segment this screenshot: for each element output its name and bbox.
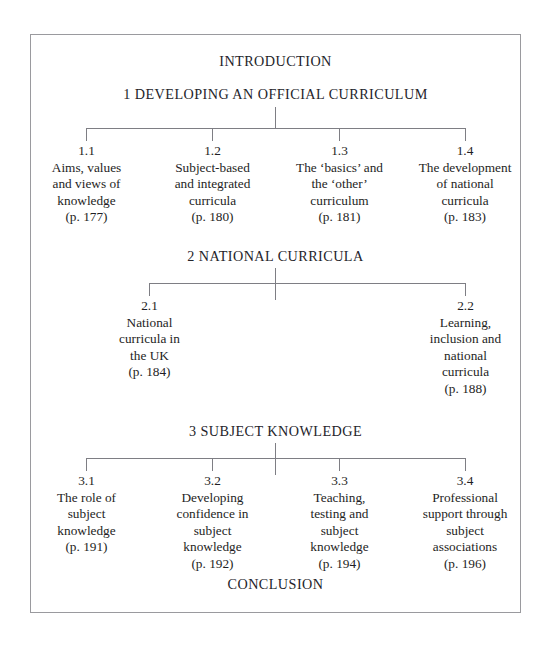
- node-3-2: 3.2 Developing confidence in subject kno…: [157, 473, 268, 572]
- connector-drop-3-1: [86, 458, 87, 471]
- connector-drop-1-2: [212, 128, 213, 141]
- diagram-frame: INTRODUCTION 1 DEVELOPING AN OFFICIAL CU…: [30, 34, 521, 613]
- connector-drop-2-1: [149, 283, 150, 296]
- connector-stem-section-1: [275, 107, 276, 128]
- connector-stem-section-3: [275, 443, 276, 475]
- node-title: The ‘basics’ and the ‘other’ curriculum: [283, 160, 396, 209]
- node-page: (p. 196): [407, 556, 523, 572]
- node-title: Teaching, testing and subject knowledge: [283, 490, 396, 556]
- node-1-3: 1.3 The ‘basics’ and the ‘other’ curricu…: [283, 143, 396, 226]
- node-number: 3.2: [157, 473, 268, 489]
- connector-drop-3-3: [339, 458, 340, 471]
- connector-bar-section-3: [86, 458, 465, 459]
- node-2-1: 2.1 National curricula in the UK (p. 184…: [94, 298, 205, 381]
- node-3-4: 3.4 Professional support through subject…: [407, 473, 523, 572]
- node-2-2: 2.2 Learning, inclusion and national cur…: [410, 298, 521, 397]
- node-title: The development of national curricula: [407, 160, 523, 209]
- connector-drop-3-2: [212, 458, 213, 471]
- node-page: (p. 181): [283, 209, 396, 225]
- node-3-3: 3.3 Teaching, testing and subject knowle…: [283, 473, 396, 572]
- node-number: 1.3: [283, 143, 396, 159]
- node-number: 3.1: [31, 473, 142, 489]
- node-number: 2.1: [94, 298, 205, 314]
- node-page: (p. 177): [31, 209, 142, 225]
- node-title: Subject-based and integrated curricula: [157, 160, 268, 209]
- node-1-4: 1.4 The development of national curricul…: [407, 143, 523, 226]
- node-number: 3.4: [407, 473, 523, 489]
- heading-section-1: 1 DEVELOPING AN OFFICIAL CURRICULUM: [31, 86, 520, 103]
- node-1-1: 1.1 Aims, values and views of knowledge …: [31, 143, 142, 226]
- connector-drop-1-1: [86, 128, 87, 141]
- connector-drop-1-3: [339, 128, 340, 141]
- node-page: (p. 191): [31, 539, 142, 555]
- heading-conclusion: CONCLUSION: [31, 576, 520, 593]
- node-number: 1.4: [407, 143, 523, 159]
- connector-bar-section-1: [86, 128, 465, 129]
- node-title: Aims, values and views of knowledge: [31, 160, 142, 209]
- connector-stem-section-2: [275, 268, 276, 300]
- node-page: (p. 183): [407, 209, 523, 225]
- node-page: (p. 192): [157, 556, 268, 572]
- heading-section-3: 3 SUBJECT KNOWLEDGE: [31, 423, 520, 440]
- node-title: The role of subject knowledge: [31, 490, 142, 539]
- node-number: 3.3: [283, 473, 396, 489]
- node-3-1: 3.1 The role of subject knowledge (p. 19…: [31, 473, 142, 556]
- connector-drop-3-4: [465, 458, 466, 471]
- node-number: 1.1: [31, 143, 142, 159]
- diagram-canvas: INTRODUCTION 1 DEVELOPING AN OFFICIAL CU…: [31, 35, 520, 612]
- node-title: Developing confidence in subject knowled…: [157, 490, 268, 556]
- node-page: (p. 180): [157, 209, 268, 225]
- connector-drop-1-4: [465, 128, 466, 141]
- node-title: National curricula in the UK: [94, 315, 205, 364]
- node-1-2: 1.2 Subject-based and integrated curricu…: [157, 143, 268, 226]
- node-title: Learning, inclusion and national curricu…: [410, 315, 521, 381]
- node-title: Professional support through subject ass…: [407, 490, 523, 556]
- connector-bar-section-2: [149, 283, 465, 284]
- node-page: (p. 184): [94, 364, 205, 380]
- connector-drop-2-2: [465, 283, 466, 296]
- node-number: 1.2: [157, 143, 268, 159]
- heading-section-2: 2 NATIONAL CURRICULA: [31, 248, 520, 265]
- heading-introduction: INTRODUCTION: [31, 53, 520, 70]
- node-page: (p. 194): [283, 556, 396, 572]
- node-page: (p. 188): [410, 381, 521, 397]
- node-number: 2.2: [410, 298, 521, 314]
